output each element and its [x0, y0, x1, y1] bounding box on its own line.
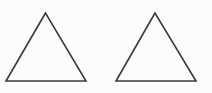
canvas-background [0, 0, 212, 93]
triangles-figure [0, 0, 212, 93]
drawing-canvas [0, 0, 212, 93]
